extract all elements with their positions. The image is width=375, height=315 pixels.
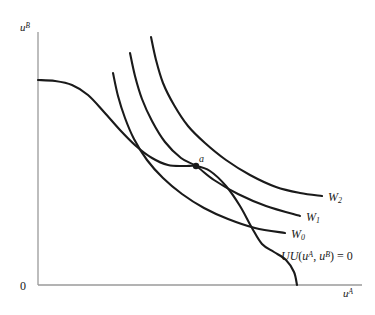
origin-label: 0 [20, 280, 26, 292]
point-a-label: a [199, 154, 204, 164]
curve-w2 [151, 37, 322, 196]
x-axis-label: uA [343, 288, 353, 299]
welfare-diagram-figure: uB uA 0 a W2 W1 W0 UU(uA, uB) = 0 [0, 0, 375, 315]
curve-label-w0: W0 [291, 228, 305, 242]
plot-area [0, 0, 375, 315]
curve-w1 [130, 53, 300, 216]
curve-label-uu-equation: UU(uA, uB) = 0 [281, 250, 353, 262]
curve-label-w1: W1 [306, 211, 320, 225]
y-axis-label: uB [20, 22, 30, 33]
curve-label-w2: W2 [328, 191, 342, 205]
